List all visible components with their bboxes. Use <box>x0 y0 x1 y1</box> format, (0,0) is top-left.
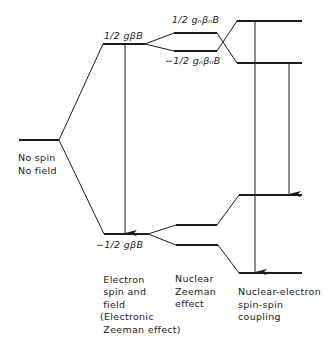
label-electron-lower: −1/2 gβB <box>96 239 143 252</box>
label-nuclear-upper: 1/2 gₙβₙB <box>172 14 219 27</box>
label-no-field: No spin No field <box>18 152 57 177</box>
caption-electronic-zeeman: Electron spin and field (Electronic Zeem… <box>100 261 181 336</box>
connector-nlb-to-c4 <box>218 245 239 273</box>
connector-nla-to-c3 <box>217 195 239 225</box>
connector-el-to-nlb <box>148 234 176 245</box>
connector-nofield-to-upper <box>59 44 103 140</box>
connector-eu-to-nua <box>145 33 174 44</box>
caption-nuclear-zeeman: Nuclear Zeeman effect <box>175 273 216 311</box>
connector-nub-to-c1 <box>217 21 237 51</box>
connector-el-to-nla <box>148 225 176 234</box>
caption-nuclear-electron-coupling: Nuclear-electron spin-spin coupling <box>238 286 321 324</box>
label-nuclear-lower: −1/2 gₙβₙB <box>165 55 220 68</box>
connector-eu-to-nub <box>145 44 174 51</box>
label-electron-upper: 1/2 gβB <box>104 30 143 43</box>
connector-nofield-to-lower <box>59 140 104 234</box>
